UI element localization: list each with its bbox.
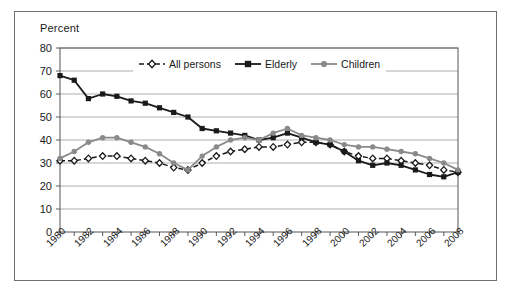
data-point-marker — [455, 167, 460, 172]
chart-plot-area: 0102030405060708019801982198419861988199… — [0, 0, 511, 294]
data-point-marker — [342, 149, 347, 154]
data-point-marker — [100, 135, 105, 140]
data-point-marker — [114, 135, 119, 140]
data-point-marker — [143, 144, 148, 149]
data-point-marker — [85, 155, 91, 162]
data-point-marker — [327, 142, 332, 147]
data-point-marker — [185, 114, 190, 119]
data-point-marker — [399, 163, 404, 168]
data-point-marker — [128, 98, 133, 103]
data-point-marker — [342, 142, 347, 147]
legend-label-all-persons: All persons — [169, 58, 221, 70]
legend-item-all-persons: All persons — [139, 58, 221, 70]
data-point-marker — [413, 167, 418, 172]
data-point-marker — [412, 160, 418, 167]
data-point-marker — [213, 153, 219, 160]
legend-label-elderly: Elderly — [265, 58, 297, 70]
data-point-marker — [242, 135, 247, 140]
data-point-marker — [128, 155, 134, 162]
data-point-marker — [86, 96, 91, 101]
data-point-marker — [370, 155, 376, 162]
y-axis-tick-label: 70 — [26, 65, 52, 77]
legend-label-children: Children — [341, 58, 380, 70]
data-point-marker — [199, 153, 204, 158]
y-axis-tick-label: 50 — [26, 111, 52, 123]
data-point-marker — [313, 140, 318, 145]
data-point-marker — [427, 156, 432, 161]
data-point-marker — [271, 130, 276, 135]
data-point-marker — [214, 128, 219, 133]
data-point-marker — [57, 73, 62, 78]
legend-marker-all-persons-icon — [139, 58, 165, 70]
data-point-marker — [100, 91, 105, 96]
legend-item-children: Children — [311, 58, 380, 70]
legend-marker-children-icon — [311, 58, 337, 70]
data-point-marker — [128, 140, 133, 145]
data-point-marker — [157, 105, 162, 110]
data-point-marker — [86, 140, 91, 145]
data-point-marker — [143, 101, 148, 106]
data-point-marker — [228, 131, 233, 136]
data-point-marker — [214, 144, 219, 149]
data-point-marker — [270, 144, 276, 151]
data-point-marker — [199, 160, 205, 167]
y-axis-tick-label: 30 — [26, 157, 52, 169]
chart-legend: All persons Elderly Children — [133, 54, 386, 74]
data-point-marker — [200, 126, 205, 131]
data-point-marker — [72, 149, 77, 154]
legend-item-elderly: Elderly — [235, 58, 297, 70]
data-point-marker — [356, 144, 361, 149]
data-point-marker — [356, 158, 361, 163]
data-point-marker — [299, 133, 304, 138]
data-point-marker — [72, 78, 77, 83]
y-axis-tick-label: 80 — [26, 42, 52, 54]
data-point-marker — [441, 160, 446, 165]
data-point-marker — [57, 156, 62, 161]
legend-marker-elderly-icon — [235, 58, 261, 70]
data-point-marker — [256, 144, 262, 151]
data-point-marker — [285, 126, 290, 131]
y-axis-tick-label: 20 — [26, 180, 52, 192]
y-axis-tick-label: 60 — [26, 88, 52, 100]
data-point-marker — [156, 160, 162, 167]
data-point-marker — [100, 153, 106, 160]
data-point-marker — [370, 163, 375, 168]
data-point-marker — [384, 160, 389, 165]
data-point-marker — [441, 167, 447, 174]
data-point-marker — [171, 160, 176, 165]
data-point-marker — [114, 94, 119, 99]
data-point-marker — [228, 137, 233, 142]
data-point-marker — [285, 131, 290, 136]
data-point-marker — [370, 144, 375, 149]
data-point-marker — [242, 146, 248, 153]
data-point-marker — [384, 147, 389, 152]
data-point-marker — [171, 110, 176, 115]
data-point-marker — [185, 167, 190, 172]
y-axis-tick-label: 40 — [26, 134, 52, 146]
data-point-marker — [114, 153, 120, 160]
data-point-marker — [284, 141, 290, 148]
data-point-marker — [427, 172, 432, 177]
data-point-marker — [256, 137, 261, 142]
data-point-marker — [227, 148, 233, 155]
line-chart-svg — [0, 0, 511, 294]
data-point-marker — [413, 151, 418, 156]
data-point-marker — [398, 149, 403, 154]
data-point-marker — [313, 135, 318, 140]
data-point-marker — [441, 174, 446, 179]
y-axis-tick-label: 10 — [26, 203, 52, 215]
data-point-marker — [157, 151, 162, 156]
data-point-marker — [271, 135, 276, 140]
data-point-marker — [327, 137, 332, 142]
